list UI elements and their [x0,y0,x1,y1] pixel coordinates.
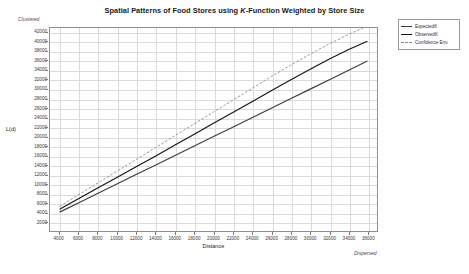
plot-area [49,27,378,232]
x-axis-tick-label: 36000 [351,236,385,241]
y-axis-tick-label: 10000 [1,182,47,187]
chart-title-before: Spatial Patterns of Food Stores using [104,6,240,15]
chart-title: Spatial Patterns of Food Stores using K-… [0,6,469,15]
legend-label: ExpectedK [415,24,437,30]
y-axis-tick-label: 18000 [1,144,47,149]
y-axis-tick-label: 40000 [1,39,47,44]
y-axis-tick-mark [45,213,48,214]
y-axis-tick-label: 42000 [1,29,47,34]
y-axis-tick-mark [45,118,48,119]
y-axis-tick-mark [45,146,48,147]
dispersed-annotation: Dispersed [354,250,377,256]
y-axis-tick-label: 28000 [1,96,47,101]
x-axis-tick-mark [97,232,98,235]
x-axis-tick-mark [136,232,137,235]
x-axis-tick-labels: 4000600080001000012000140001600018000200… [49,232,378,246]
plot-series-svg [50,28,377,231]
x-axis-tick-mark [349,232,350,235]
y-axis-tick-mark [45,127,48,128]
legend-label: Confidence Env. [415,40,448,46]
chart-title-after: -Function Weighted by Store Size [246,6,365,15]
y-axis-tick-label: 24000 [1,115,47,120]
x-axis-tick-mark [155,232,156,235]
y-axis-tick-mark [45,156,48,157]
y-axis-tick-label: 38000 [1,48,47,53]
y-axis-tick-mark [45,137,48,138]
x-axis-tick-mark [233,232,234,235]
x-axis-tick-mark [291,232,292,235]
y-axis-tick-mark [45,194,48,195]
legend-line-icon [401,32,412,37]
x-axis-tick-mark [214,232,215,235]
y-axis-tick-label: 12000 [1,172,47,177]
series-line-confidence-env [60,28,368,206]
k-function-chart: Spatial Patterns of Food Stores using K-… [0,0,469,274]
y-axis-tick-mark [45,60,48,61]
x-axis-tick-mark [175,232,176,235]
y-axis-tick-mark [45,99,48,100]
y-axis-tick-mark [45,41,48,42]
x-axis-tick-mark [78,232,79,235]
y-axis-tick-label: 26000 [1,106,47,111]
x-axis-tick-mark [252,232,253,235]
y-axis-tick-label: 36000 [1,58,47,63]
y-axis-tick-mark [45,165,48,166]
x-axis-tick-mark [117,232,118,235]
y-axis-tick-label: 20000 [1,134,47,139]
y-axis-tick-label: 30000 [1,86,47,91]
legend-item-expectedk[interactable]: ExpectedK [401,23,456,30]
x-axis-tick-mark [194,232,195,235]
y-axis-tick-mark [45,175,48,176]
legend-item-observedk[interactable]: ObservedK [401,31,456,38]
legend-dashed-line-icon [401,40,412,45]
x-axis-tick-mark [368,232,369,235]
y-axis-tick-label: 16000 [1,153,47,158]
y-axis-tick-mark [45,79,48,80]
x-axis-tick-mark [330,232,331,235]
legend-item-confidence-env[interactable]: Confidence Env. [401,39,456,46]
y-axis-tick-mark [45,89,48,90]
y-axis-tick-mark [45,222,48,223]
series-line-observedk [60,41,368,209]
y-axis-tick-mark [45,203,48,204]
chart-legend: ExpectedK ObservedK Confidence Env. [398,19,460,50]
y-axis-tick-label: 14000 [1,163,47,168]
x-axis-tick-mark [310,232,311,235]
legend-line-icon [401,24,412,29]
y-axis-tick-label: 6000 [1,201,47,206]
y-axis-tick-label: 32000 [1,77,47,82]
y-axis-tick-mark [45,108,48,109]
x-axis-tick-mark [59,232,60,235]
y-axis-tick-mark [45,184,48,185]
y-axis-tick-mark [45,70,48,71]
x-axis-tick-mark [272,232,273,235]
y-axis-tick-label: 2000 [1,220,47,225]
y-axis-tick-labels: 2000400060008000100001200014000160001800… [0,27,47,232]
y-axis-tick-mark [45,51,48,52]
y-axis-tick-label: 8000 [1,191,47,196]
legend-label: ObservedK [415,32,438,38]
y-axis-tick-label: 4000 [1,210,47,215]
y-axis-tick-label: 22000 [1,125,47,130]
y-axis-tick-mark [45,32,48,33]
y-axis-tick-label: 34000 [1,67,47,72]
series-line-expectedk [60,61,368,212]
clustered-annotation: Clustered [18,16,39,22]
